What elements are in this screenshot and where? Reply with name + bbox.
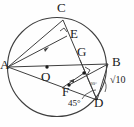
point-dot-G xyxy=(82,71,85,74)
angle-label-small-D: 30° xyxy=(90,81,97,86)
angle-label-45: 45° xyxy=(68,99,81,108)
segment-A-E xyxy=(8,36,67,67)
geometry-figure: A B C D E F G O √10 45° 30° xyxy=(0,0,134,127)
vertex-label-G: G xyxy=(77,45,86,58)
right-angle-marker-E xyxy=(60,28,67,32)
vertex-label-A: A xyxy=(0,58,9,71)
vertex-label-O: O xyxy=(41,70,50,83)
vertex-label-B: B xyxy=(112,55,121,68)
segment-A-B xyxy=(8,64,108,67)
vertex-label-C: C xyxy=(57,1,66,14)
length-label-sqrt10: √10 xyxy=(110,75,126,85)
vertex-label-F: F xyxy=(62,85,69,98)
vertex-label-D: D xyxy=(94,96,103,109)
vertex-label-E: E xyxy=(70,27,78,40)
segment-D-G-ext xyxy=(80,60,97,100)
segment-A-C xyxy=(8,20,63,67)
